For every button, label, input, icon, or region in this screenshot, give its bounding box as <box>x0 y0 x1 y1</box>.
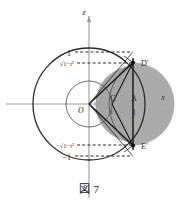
tick-label-top-one: 1 <box>67 49 71 58</box>
figure-caption: 図 7 <box>0 182 178 196</box>
tick-label-x-one: 1 <box>132 108 136 117</box>
figure-container: z x 1 √1−t² −√1−t² −1 O C t A 1 D′ E′ 図 … <box>0 0 178 208</box>
z-axis-label: z <box>81 8 86 17</box>
tick-label-top-sqrt: √1−t² <box>60 60 74 67</box>
point-label-A: A <box>131 94 137 103</box>
tick-label-bottom-one: −1 <box>62 153 71 162</box>
shaded-lens-region <box>95 63 174 146</box>
point-label-Dprime: D′ <box>141 59 149 68</box>
point-marker-Eprime <box>131 143 135 147</box>
point-marker-Dprime <box>131 60 135 64</box>
geometry-figure: z x 1 √1−t² −√1−t² −1 O C t A 1 D′ E′ <box>0 0 178 208</box>
point-label-O: O <box>78 106 84 115</box>
point-label-C: C <box>110 94 115 103</box>
tick-label-bottom-sqrt: −√1−t² <box>56 142 74 149</box>
z-axis-arrow-icon <box>87 16 91 22</box>
point-label-Eprime: E′ <box>141 142 148 151</box>
tick-label-x-t: t <box>111 108 113 115</box>
x-axis-label: x <box>160 93 165 102</box>
